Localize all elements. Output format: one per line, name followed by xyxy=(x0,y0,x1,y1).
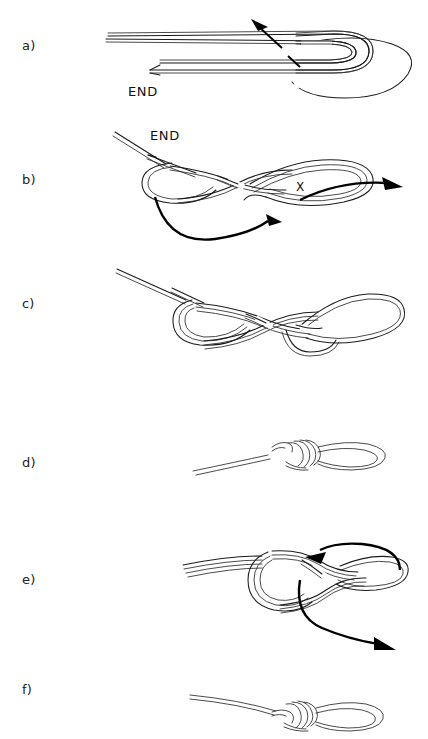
panel-b-artwork xyxy=(113,132,403,240)
panel-a-arrow-head xyxy=(251,19,268,31)
panel-f-artwork xyxy=(190,695,383,731)
panel-e-arrow-lower-head xyxy=(374,637,396,650)
panel-e-artwork xyxy=(183,544,408,650)
panel-b-arrow-bottom-head xyxy=(266,214,282,226)
panel-d-artwork xyxy=(193,440,385,475)
panel-a-artwork xyxy=(106,19,412,98)
panel-e-arrow-lower-shaft xyxy=(299,580,378,644)
knot-diagram-figure: a) b) c) d) e) f) END END X xyxy=(0,0,428,739)
panel-c-artwork xyxy=(116,269,405,356)
panel-b-arrow-right-head xyxy=(382,177,403,190)
panel-a-arrow-shaft-lower xyxy=(288,56,300,67)
knot-line-art xyxy=(0,0,428,739)
